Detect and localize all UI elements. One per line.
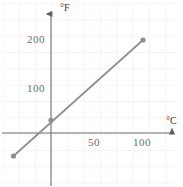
x-axis-tick-label-100: 100: [133, 136, 151, 148]
data-point-marker-high: [140, 37, 145, 42]
x-axis-tick-label-50: 50: [88, 136, 100, 148]
y-axis-tick-label-200: 200: [27, 33, 45, 45]
grid-lines: [2, 3, 176, 186]
x-axis-title-celsius: °C: [166, 115, 177, 126]
y-axis-title-fahrenheit: °F: [60, 2, 70, 13]
temperature-conversion-chart: 200 100 50 100 °F °C: [0, 0, 183, 187]
data-point-marker-intercept: [48, 118, 53, 123]
y-axis-tick-label-100: 100: [27, 82, 45, 94]
data-point-marker-low: [11, 153, 16, 158]
